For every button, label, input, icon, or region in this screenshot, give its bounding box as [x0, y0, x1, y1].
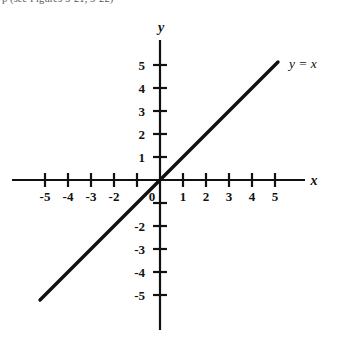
x-tick-label: -5: [40, 189, 51, 204]
x-tick-label: 1: [180, 189, 187, 204]
y-tick-label: 2: [139, 127, 146, 142]
y-tick-label: -2: [134, 219, 145, 234]
y-tick-label: 3: [139, 104, 146, 119]
y-tick-label: 5: [139, 58, 146, 73]
y-tick-label: 1: [139, 150, 146, 165]
figure-container: p (see Figures 5-21, 5-22): [0, 0, 341, 342]
x-tick-label: -2: [109, 189, 120, 204]
y-tick-label: 4: [139, 81, 146, 96]
x-tick-label: 5: [272, 189, 279, 204]
x-tick-label: 3: [226, 189, 233, 204]
y-axis-label: y: [156, 20, 165, 35]
y-tick-label: -3: [134, 242, 145, 257]
x-tick-label: 4: [249, 189, 256, 204]
x-tick-label: -3: [86, 189, 97, 204]
x-tick-label: -4: [63, 189, 74, 204]
curve-label-y-equals-x: y = x: [287, 56, 317, 71]
y-tick-label: -5: [134, 288, 145, 303]
y-tick-label: -4: [134, 265, 145, 280]
x-axis-label: x: [310, 173, 318, 188]
coordinate-plot: -5 -4 -3 -2 0 1 2 3 4 5 5 4 3 2 1 -2 -3 …: [0, 0, 341, 342]
x-tick-label: 2: [203, 189, 210, 204]
x-tick-label-origin: 0: [149, 189, 156, 204]
